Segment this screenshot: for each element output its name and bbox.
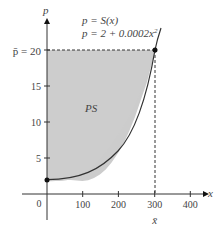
- pbar-label: p̄ = 20: [13, 45, 42, 57]
- y-axis-label: p: [42, 4, 49, 16]
- y-tick-label-5: 5: [36, 153, 41, 164]
- x-axis-label: x: [207, 187, 213, 199]
- ps-label: PS: [84, 102, 98, 114]
- x-tick-label-100: 100: [75, 199, 90, 210]
- curve-label-line2-main: p = 2 + 0.0002x: [81, 27, 154, 39]
- curve-label-line2: p = 2 + 0.0002x2: [81, 27, 158, 39]
- y-tick-label-15: 15: [31, 81, 41, 92]
- origin-label: 0: [37, 198, 42, 209]
- point-0-2: [45, 178, 50, 183]
- producers-surplus-chart: p x 0 100 200 300 400 5 10 15 p̄ = 20 x̄…: [0, 0, 216, 230]
- x-tick-label-400: 400: [183, 199, 198, 210]
- x-tick-label-200: 200: [111, 199, 126, 210]
- x-tick-label-300: 300: [147, 199, 162, 210]
- xbar-label: x̄: [151, 214, 157, 226]
- curve-label-line1: p = S(x): [81, 14, 118, 27]
- y-tick-label-10: 10: [31, 117, 41, 128]
- y-axis-arrowhead: [44, 18, 50, 24]
- point-300-20: [153, 48, 158, 53]
- curve-label-line2-exponent: 2: [154, 27, 158, 35]
